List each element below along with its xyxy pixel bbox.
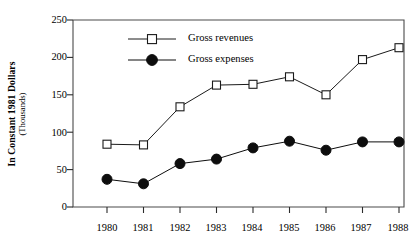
chart-legend: Gross revenues Gross expenses (0, 0, 418, 247)
legend-label-gross-revenues: Gross revenues (188, 32, 253, 43)
legend-label-gross-expenses: Gross expenses (188, 53, 254, 64)
chart-canvas: In Constant 1981 Dollars (Thousands) 250… (0, 0, 418, 247)
